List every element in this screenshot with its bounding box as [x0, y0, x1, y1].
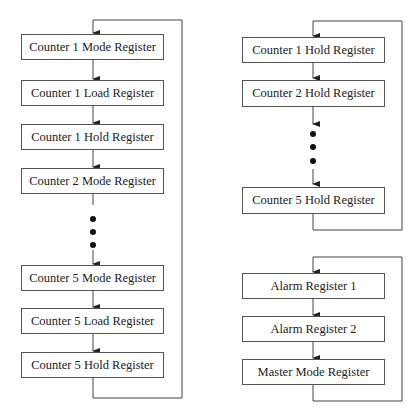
master-mode-register-box: Master Mode Register [242, 359, 385, 385]
register-label: Counter 5 Hold Register [31, 358, 154, 373]
register-label: Counter 1 Load Register [31, 86, 154, 101]
register-label: Alarm Register 2 [270, 322, 356, 337]
register-label: Counter 1 Hold Register [252, 43, 375, 58]
left-register-box: Counter 5 Load Register [21, 308, 164, 334]
left-register-box: Counter 5 Mode Register [21, 265, 164, 291]
register-label: Counter 5 Mode Register [29, 271, 156, 286]
register-label: Counter 2 Hold Register [252, 86, 375, 101]
right-register-box: Counter 1 Hold Register [242, 37, 385, 63]
register-label: Master Mode Register [258, 365, 370, 380]
right-register-box: Counter 5 Hold Register [242, 187, 385, 214]
left-register-box: Counter 1 Load Register [21, 80, 164, 106]
alarm-register-box: Alarm Register 1 [242, 273, 385, 299]
register-label: Alarm Register 1 [270, 279, 356, 294]
register-label: Counter 1 Hold Register [31, 130, 154, 145]
register-label: Counter 1 Mode Register [29, 40, 156, 55]
left-register-box: Counter 2 Mode Register [21, 168, 164, 194]
left-register-box: Counter 5 Hold Register [21, 352, 164, 378]
register-label: Counter 2 Mode Register [29, 174, 156, 189]
left-register-box: Counter 1 Hold Register [21, 124, 164, 150]
register-label: Counter 5 Load Register [31, 314, 154, 329]
alarm-register-box: Alarm Register 2 [242, 316, 385, 342]
left-register-box: Counter 1 Mode Register [21, 34, 164, 60]
right-register-box: Counter 2 Hold Register [242, 80, 385, 107]
register-label: Counter 5 Hold Register [252, 193, 375, 208]
